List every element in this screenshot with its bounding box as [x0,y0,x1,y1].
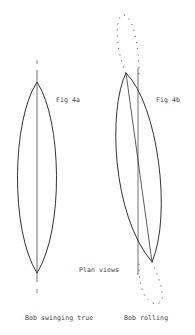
plan-views-annotation: Plan views [79,266,119,274]
fig-4b-caption: Bob rolling [124,314,168,322]
fig-4b-drawing [116,15,163,304]
fig-4a-caption: Bob swinging true [25,314,93,322]
fig-4a-lens-left [17,82,37,273]
fig-4a-label: Fig 4a [56,96,80,104]
fig-4a-drawing [17,60,56,293]
fig-4b-label: Fig 4b [156,96,180,104]
fig-4b-lens-left [116,73,152,262]
fig-4b-dotted-orbit [117,15,162,304]
fig-4a-lens-right [37,82,57,273]
fig-4b-diagonal-axis [126,73,152,262]
diagram-canvas [0,0,195,335]
